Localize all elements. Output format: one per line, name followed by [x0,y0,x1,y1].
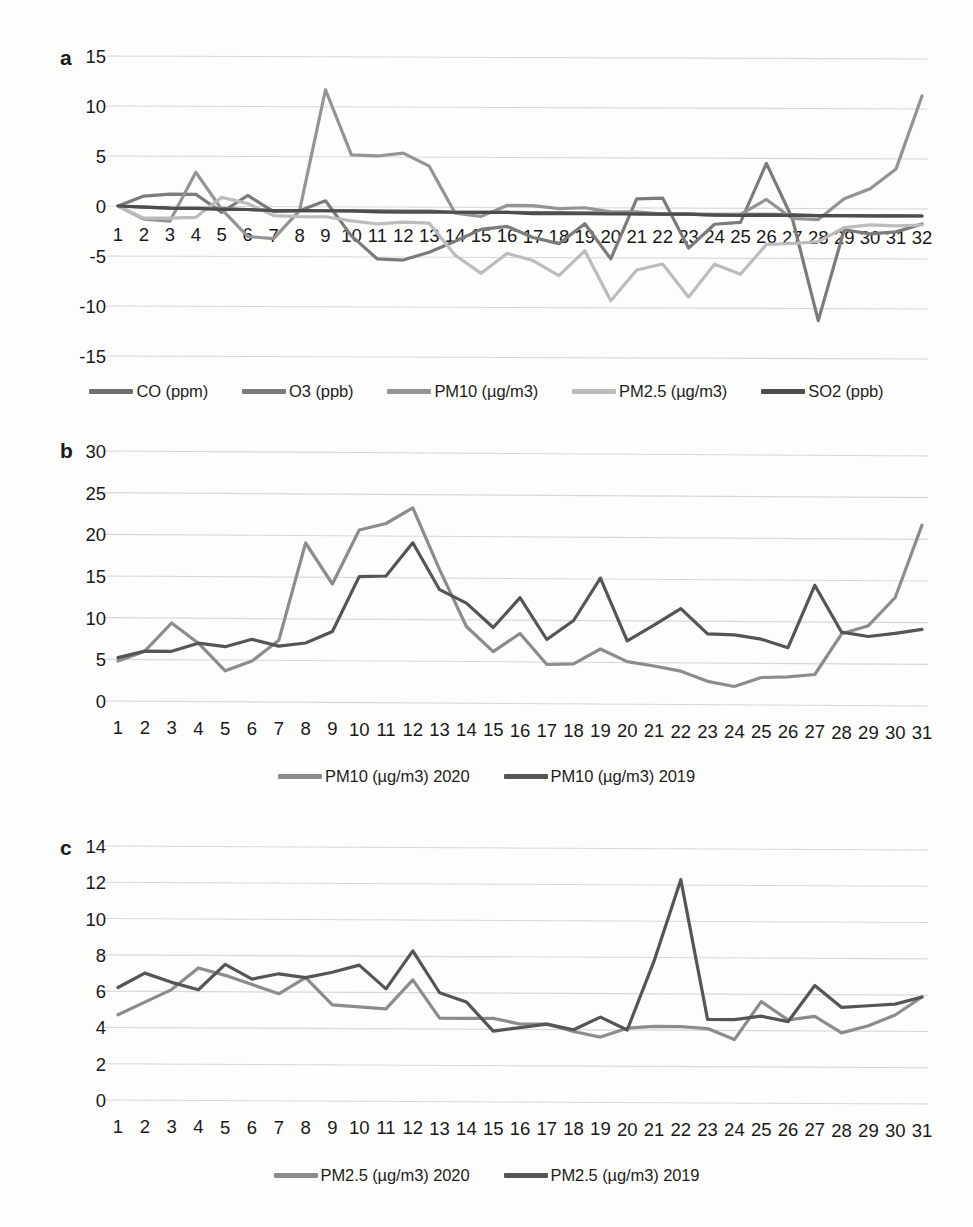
svg-text:4: 4 [193,1116,203,1137]
svg-text:28: 28 [831,1120,852,1141]
svg-text:32: 32 [912,227,933,248]
svg-text:29: 29 [858,1120,879,1141]
panel-b-legend: PM10 (µg/m3) 2020PM10 (µg/m3) 2019 [0,767,973,786]
svg-text:27: 27 [805,1119,826,1140]
svg-text:30: 30 [885,1120,906,1141]
svg-text:11: 11 [376,1117,395,1138]
svg-text:11: 11 [376,719,395,740]
svg-text:6: 6 [247,1117,257,1138]
svg-text:5: 5 [220,718,230,739]
svg-text:24: 24 [724,1119,745,1140]
svg-text:-10: -10 [79,296,106,317]
svg-text:6: 6 [96,981,106,1002]
svg-text:9: 9 [327,718,337,739]
svg-text:0: 0 [96,691,106,712]
svg-text:20: 20 [617,1119,638,1140]
legend-label: PM2.5 (µg/m3) 2020 [321,1166,470,1185]
svg-text:26: 26 [778,721,799,742]
legend-item[interactable]: PM2.5 (µg/m3) [572,382,727,401]
svg-text:12: 12 [85,872,106,893]
svg-text:15: 15 [85,566,106,587]
legend-item[interactable]: PM2.5 (µg/m3) 2019 [504,1166,700,1185]
svg-text:16: 16 [510,1118,531,1139]
svg-text:27: 27 [805,721,826,742]
svg-text:29: 29 [858,722,879,743]
legend-swatch-line-icon [274,1173,318,1178]
legend-label: CO (ppm) [136,382,208,401]
svg-text:13: 13 [419,225,440,246]
svg-text:19: 19 [590,1118,611,1139]
svg-text:2: 2 [140,717,150,738]
svg-text:30: 30 [860,227,881,248]
svg-text:30: 30 [85,441,106,462]
legend-item[interactable]: O3 (ppb) [242,382,353,401]
svg-text:16: 16 [510,720,531,741]
svg-text:21: 21 [644,720,665,741]
svg-text:1: 1 [113,1116,123,1137]
svg-text:8: 8 [300,718,310,739]
svg-text:18: 18 [563,1118,584,1139]
svg-text:22: 22 [671,721,692,742]
panel-c-svg: 0246810121412345678910111213141516171819… [0,828,973,1158]
svg-text:1: 1 [113,717,123,738]
figure-caption-partial [28,1208,528,1226]
legend-label: SO2 (ppb) [808,382,883,401]
panel-c-plot: 0246810121412345678910111213141516171819… [0,828,973,1158]
svg-text:8: 8 [294,225,304,246]
svg-text:25: 25 [751,721,772,742]
legend-swatch-line-icon [242,389,286,394]
legend-item[interactable]: PM10 (µg/m3) 2019 [504,767,695,786]
svg-text:14: 14 [85,836,106,857]
svg-text:25: 25 [751,1119,772,1140]
legend-item[interactable]: PM2.5 (µg/m3) 2020 [274,1166,470,1185]
svg-text:17: 17 [537,1118,558,1139]
svg-text:12: 12 [403,1117,424,1138]
svg-text:23: 23 [697,721,718,742]
legend-swatch-line-icon [572,389,616,394]
legend-swatch-line-icon [89,389,133,394]
legend-item[interactable]: SO2 (ppb) [761,382,883,401]
svg-text:5: 5 [96,649,106,670]
svg-text:2: 2 [96,1054,106,1075]
legend-swatch-line-icon [504,774,548,779]
legend-item[interactable]: PM10 (µg/m3) 2020 [278,767,469,786]
svg-text:9: 9 [327,1117,337,1138]
panel-b-plot: 0510152025301234567891011121314151617181… [0,425,973,755]
svg-text:3: 3 [166,1116,176,1137]
panel-b-svg: 0510152025301234567891011121314151617181… [0,425,973,755]
svg-text:17: 17 [537,720,558,741]
svg-text:5: 5 [220,1117,230,1138]
svg-text:20: 20 [85,524,106,545]
legend-item[interactable]: CO (ppm) [89,382,208,401]
svg-text:21: 21 [644,1119,665,1140]
legend-item[interactable]: PM10 (µg/m3) [387,382,538,401]
panel-a-svg: 151050-5-10-1512345678910111213141516171… [0,30,973,390]
chart-panel-c: c 02468101214123456789101112131415161718… [0,828,973,1227]
svg-text:8: 8 [300,1117,310,1138]
svg-text:28: 28 [831,722,852,743]
figure-page: a 151050-5-10-15123456789101112131415161… [0,0,973,1227]
svg-text:15: 15 [85,46,106,67]
legend-label: PM10 (µg/m3) 2020 [325,767,469,786]
svg-text:0: 0 [96,196,106,217]
svg-text:6: 6 [247,718,257,739]
legend-swatch-line-icon [387,389,431,394]
svg-text:3: 3 [165,224,175,245]
svg-text:30: 30 [885,722,906,743]
svg-text:12: 12 [393,225,414,246]
svg-text:10: 10 [349,719,370,740]
svg-text:12: 12 [403,719,424,740]
svg-text:4: 4 [96,1017,106,1038]
svg-text:-15: -15 [79,346,106,367]
legend-label: PM2.5 (µg/m3) 2019 [551,1166,700,1185]
svg-text:18: 18 [563,720,584,741]
legend-label: PM10 (µg/m3) [434,382,538,401]
svg-text:4: 4 [191,224,201,245]
chart-panel-b: b 05101520253012345678910111213141516171… [0,425,973,825]
legend-swatch-line-icon [278,774,322,779]
svg-text:22: 22 [652,226,673,247]
svg-text:7: 7 [274,718,284,739]
svg-text:-5: -5 [90,246,106,267]
svg-text:20: 20 [617,720,638,741]
svg-text:26: 26 [778,1119,799,1140]
